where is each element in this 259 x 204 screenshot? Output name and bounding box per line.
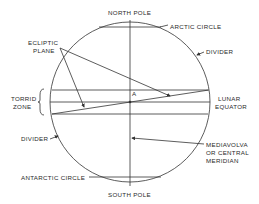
point-a-label: A xyxy=(132,90,137,97)
ecliptic-label: ECLIPTIC xyxy=(28,39,58,46)
torrid-label: TORRID xyxy=(11,95,37,102)
or-central-label: OR CENTRAL xyxy=(206,149,249,156)
equator-label: EQUATOR xyxy=(215,103,247,110)
antarctic-circle-label: ANTARCTIC CIRCLE xyxy=(21,174,85,181)
divider-bottom-leader xyxy=(50,136,58,139)
meridian-leader xyxy=(132,138,204,144)
south-pole-label: SOUTH POLE xyxy=(108,191,151,198)
meridian-label: MERIDIAN xyxy=(206,157,239,164)
divider-top-leader xyxy=(197,52,204,55)
point-a-marker xyxy=(129,101,132,104)
diagram-canvas: NORTH POLE ARCTIC CIRCLE DIVIDER ECLIPTI… xyxy=(0,0,259,204)
torrid-brace xyxy=(38,89,44,115)
plane-label: PLANE xyxy=(33,47,55,54)
arctic-leader xyxy=(160,25,168,27)
divider-top-label: DIVIDER xyxy=(206,48,233,55)
zone-label: ZONE xyxy=(13,103,31,110)
divider-bottom-label: DIVIDER xyxy=(21,135,48,142)
north-pole-label: NORTH POLE xyxy=(108,9,151,16)
arctic-circle-label: ARCTIC CIRCLE xyxy=(170,23,221,30)
lunar-globe-diagram: NORTH POLE ARCTIC CIRCLE DIVIDER ECLIPTI… xyxy=(0,0,259,204)
lunar-label: LUNAR xyxy=(218,95,241,102)
mediavolva-label: MEDIAVOLVA xyxy=(206,141,248,148)
